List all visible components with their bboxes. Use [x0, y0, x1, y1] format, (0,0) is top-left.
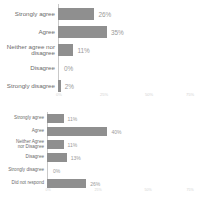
category-label: Did not respond	[0, 181, 47, 186]
bar-track: 11%	[58, 44, 198, 56]
bar-track: 35%	[58, 26, 198, 38]
value-label: 13%	[71, 155, 81, 161]
top-chart-plot-area: Strongly agree 26% Agree 35% Neither agr…	[0, 2, 198, 98]
category-label: Neither agree nor disagree	[0, 44, 58, 57]
value-label: 26%	[98, 11, 111, 18]
survey-bar-charts-figure: Strongly agree 26% Agree 35% Neither agr…	[0, 0, 198, 201]
bar-track: 11%	[47, 114, 198, 123]
value-label: 26%	[90, 181, 100, 187]
bar-strongly-agree	[47, 114, 64, 123]
table-row: Strongly agree 26%	[0, 8, 198, 20]
table-row: Disagree 0%	[0, 62, 198, 74]
bottom-bar-chart: Strongly agree 11% Agree 40% Neither Agr…	[0, 112, 198, 201]
table-row: Agree 35%	[0, 26, 198, 38]
category-label: Neither Agree nor Disagree	[0, 140, 47, 150]
x-tick-label: 25%	[94, 188, 101, 192]
category-label: Strongly agree	[0, 11, 58, 18]
table-row: Disagree 13%	[0, 153, 198, 162]
bar-strongly-disagree	[58, 80, 61, 92]
bar-track: 26%	[58, 8, 198, 20]
bar-track: 2%	[58, 80, 198, 92]
table-row: Strongly disagree 0%	[0, 166, 198, 175]
table-row: Neither agree nor disagree 11%	[0, 44, 198, 56]
table-row: Did not respond 26%	[0, 179, 198, 188]
category-label: Disagree	[0, 155, 47, 160]
category-label: Strongly disagree	[0, 83, 58, 90]
top-chart-x-axis: 0% 25% 50% 75%	[0, 92, 198, 101]
category-label: Agree	[0, 129, 47, 134]
category-label: Strongly agree	[0, 116, 47, 121]
bar-track: 0%	[47, 166, 198, 175]
x-tick-label: 0%	[45, 188, 50, 192]
bar-track: 40%	[47, 127, 198, 136]
bar-strongly-agree	[58, 8, 94, 20]
bar-track: 0%	[58, 62, 198, 74]
bottom-chart-x-axis: 0% 25% 50% 75%	[0, 188, 198, 197]
bar-did-not-respond	[47, 179, 86, 188]
category-label: Disagree	[0, 65, 58, 72]
value-label: 11%	[68, 142, 78, 148]
bar-track: 11%	[47, 140, 198, 149]
x-tick-label: 50%	[144, 188, 151, 192]
bar-neither-agree-nor-disagree	[47, 140, 64, 149]
bar-neither-agree-nor-disagree	[58, 44, 73, 56]
value-label: 0%	[53, 168, 60, 174]
category-label: Strongly disagree	[0, 168, 47, 173]
x-tick-label: 75%	[186, 188, 193, 192]
x-tick-label: 25%	[100, 92, 108, 97]
bar-agree	[47, 127, 107, 136]
x-tick-label: 50%	[145, 92, 153, 97]
value-label: 11%	[68, 116, 78, 122]
bar-track: 13%	[47, 153, 198, 162]
x-tick-label: 75%	[186, 92, 194, 97]
value-label: 35%	[111, 29, 124, 36]
value-label: 0%	[64, 65, 73, 72]
table-row: Neither Agree nor Disagree 11%	[0, 140, 198, 149]
bottom-chart-plot-area: Strongly agree 11% Agree 40% Neither Agr…	[0, 112, 198, 201]
value-label: 11%	[77, 47, 89, 54]
x-tick-label: 0%	[56, 92, 62, 97]
bar-agree	[58, 26, 107, 38]
value-label: 40%	[111, 129, 121, 135]
category-label: Agree	[0, 29, 58, 36]
table-row: Strongly disagree 2%	[0, 80, 198, 92]
bar-disagree	[47, 153, 67, 162]
table-row: Strongly agree 11%	[0, 114, 198, 123]
value-label: 2%	[65, 83, 74, 90]
table-row: Agree 40%	[0, 127, 198, 136]
top-bar-chart: Strongly agree 26% Agree 35% Neither agr…	[0, 2, 198, 98]
bar-track: 26%	[47, 179, 198, 188]
